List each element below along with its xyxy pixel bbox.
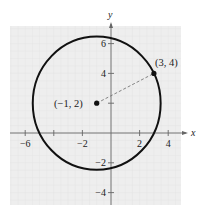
x-axis-arrow-icon bbox=[182, 131, 188, 135]
svg-text:−4: −4 bbox=[95, 187, 106, 198]
svg-text:−2: −2 bbox=[95, 157, 106, 168]
point-on-circle bbox=[151, 71, 156, 76]
plot-area bbox=[10, 26, 181, 205]
svg-text:−2: −2 bbox=[77, 138, 88, 149]
svg-text:4: 4 bbox=[101, 68, 106, 79]
center-point-label: (−1, 2) bbox=[54, 98, 83, 110]
circle-graph: x y −6−224−4−246 (−1, 2) (3, 4) bbox=[0, 0, 207, 214]
circle-point-label: (3, 4) bbox=[155, 57, 178, 69]
svg-text:2: 2 bbox=[137, 138, 142, 149]
y-axis-label: y bbox=[107, 9, 113, 20]
x-axis-label: x bbox=[190, 127, 196, 138]
y-axis-arrow-icon bbox=[109, 22, 113, 28]
center-point bbox=[94, 101, 99, 106]
svg-text:4: 4 bbox=[166, 138, 171, 149]
svg-text:−6: −6 bbox=[20, 138, 31, 149]
svg-text:6: 6 bbox=[101, 38, 106, 49]
